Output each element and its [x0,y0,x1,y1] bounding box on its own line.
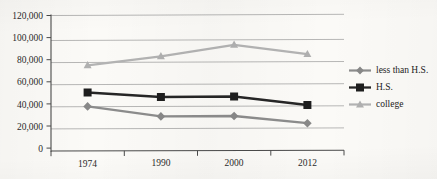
gridline-60000 [51,84,344,85]
series-hs-marker [157,93,165,101]
series-hs-marker [303,101,311,109]
legend-item-college[interactable]: college [349,99,403,109]
legend-label-less-than-hs: less than H.S. [376,65,428,75]
series-less-than-hs-marker [83,102,92,111]
x-axis-label-2000: 2000 [225,158,244,168]
legend-label-hs: H.S. [376,82,393,92]
y-axis-label-60000: 60,000 [17,77,43,87]
series-college [84,41,312,69]
chart-legend: less than H.S. H.S. college [349,65,428,109]
y-axis-label-100000: 100,000 [12,33,43,43]
series-less-than-hs-marker [230,112,239,121]
series-less-than-hs-marker [303,119,312,128]
y-axis-label-0: 0 [38,144,43,154]
gridlines [51,14,344,129]
y-axis-label-80000: 80,000 [17,55,43,65]
gridline-100000 [51,39,344,40]
x-axis-label-1974: 1974 [78,159,97,169]
legend-marker-square-icon [356,84,364,92]
series-hs-marker [84,89,92,97]
gridline-120000 [51,14,344,15]
legend-marker-diamond-icon [356,67,364,75]
legend-label-college: college [376,99,403,109]
series-less-than-hs-line [88,106,308,123]
series-hs-marker [230,93,238,101]
y-axis-label-40000: 40,000 [17,100,43,110]
chart-canvas: 120,000 100,000 80,000 60,000 40,000 20,… [0,0,437,179]
gridline-80000 [51,62,344,63]
x-axis-label-1990: 1990 [151,158,170,168]
legend-item-hs[interactable]: H.S. [349,82,393,92]
series-less-than-hs-marker [157,112,166,121]
y-axis-label-120000: 120,000 [12,11,43,21]
series-hs-line [88,93,308,106]
x-axis-label-2012: 2012 [298,158,317,168]
legend-item-less-than-hs[interactable]: less than H.S. [349,65,428,75]
line-chart-figure: 120,000 100,000 80,000 60,000 40,000 20,… [0,0,437,179]
y-axis-label-20000: 20,000 [17,122,43,132]
y-axis-ticks [47,16,52,149]
gridline-20000 [51,128,344,129]
